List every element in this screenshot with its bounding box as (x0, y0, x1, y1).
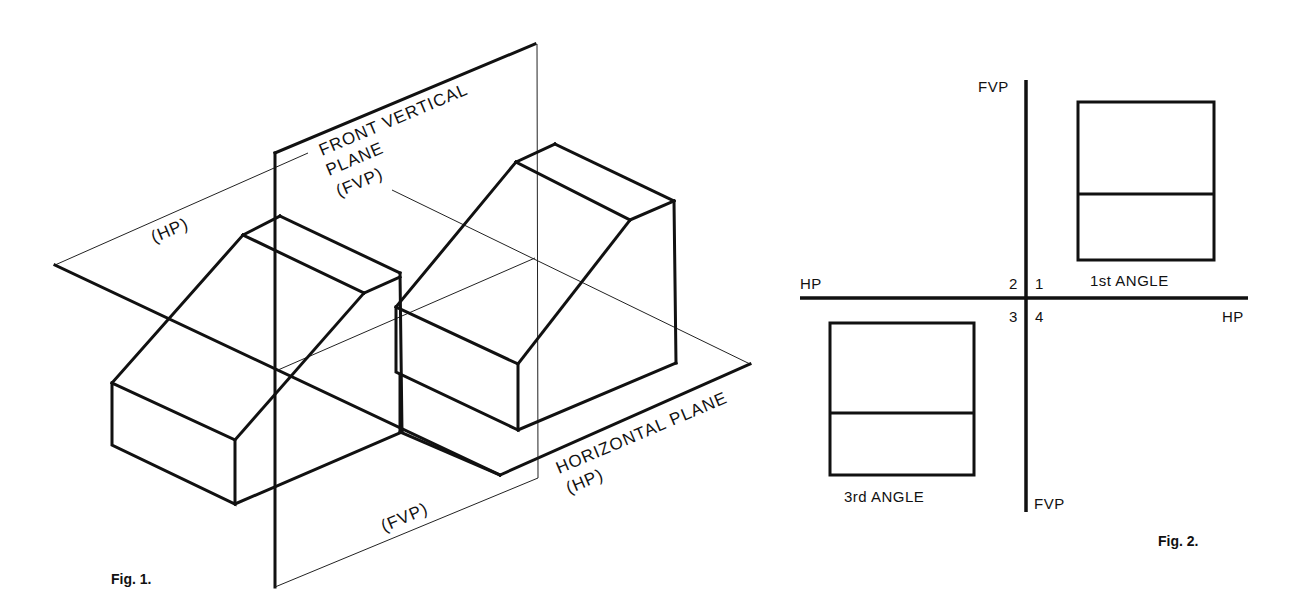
first-angle-view-box (1078, 102, 1214, 260)
third-angle-views (830, 323, 974, 475)
figure-2-caption: Fig. 2. (1158, 533, 1198, 549)
fvp-lower-label: (FVP) (378, 499, 431, 536)
left-block-ridge-back (280, 216, 400, 273)
fvp-top-label: FVP (978, 78, 1009, 95)
hp-upper-label: (HP) (148, 214, 191, 247)
third-angle-label: 3rd ANGLE (844, 488, 924, 505)
fvp-bottom-edge (275, 478, 538, 587)
right-block-back-vertical (674, 201, 676, 363)
first-angle-label: 1st ANGLE (1090, 272, 1169, 289)
figure-1-caption: Fig. 1. (111, 571, 151, 587)
quadrant-3-label: 3 (1009, 308, 1018, 325)
right-block-front-face (396, 307, 518, 430)
fvp-label-line1: FRONT VERTICAL (316, 80, 471, 160)
figure-1: FRONT VERTICAL PLANE (FVP) (HP) (FVP) HO… (55, 44, 750, 587)
figure-2: FVP FVP HP HP 2 1 3 4 1st ANGLE 3rd ANGL… (800, 78, 1248, 549)
quadrant-4-label: 4 (1035, 308, 1044, 325)
left-block-bottom-right (235, 432, 402, 504)
left-block-front-face (112, 383, 235, 504)
hp-right-label: HP (1222, 308, 1244, 325)
fvp-top-edge (275, 44, 535, 153)
fvp-right-edge (537, 44, 538, 478)
left-block-slope-left (112, 235, 243, 383)
hp-left-label: HP (800, 275, 822, 292)
left-block-slope-right (235, 293, 364, 440)
diagram-canvas: FRONT VERTICAL PLANE (FVP) (HP) (FVP) HO… (0, 0, 1296, 609)
right-block-top-left (516, 144, 555, 162)
hp-back-right-edge (392, 190, 750, 364)
left-block-ridge-front (243, 235, 364, 293)
quadrant-2-label: 2 (1009, 275, 1018, 292)
left-block-top-right (364, 277, 400, 293)
first-angle-views (1078, 102, 1214, 260)
third-angle-view-box (830, 323, 974, 475)
figure-1-labels: FRONT VERTICAL PLANE (FVP) (HP) (FVP) HO… (111, 80, 730, 587)
right-block-lower-bottom (400, 432, 500, 475)
right-block-top-right (630, 201, 674, 220)
right-block-slope-right (518, 220, 630, 364)
fvp-bottom-label: FVP (1034, 495, 1065, 512)
hp-label-line1: HORIZONTAL PLANE (553, 388, 730, 477)
quadrant-1-label: 1 (1035, 275, 1044, 292)
right-block-slope-left (396, 162, 516, 307)
